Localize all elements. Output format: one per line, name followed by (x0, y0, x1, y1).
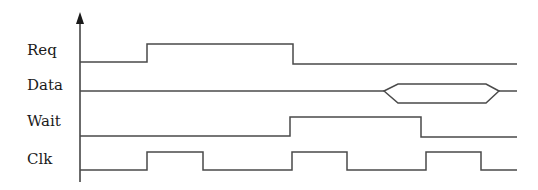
signal-label-wait: Wait (27, 112, 61, 130)
waveform-clk (80, 152, 517, 170)
signal-req: Req (27, 41, 517, 64)
timing-diagram: Req Data Wait Clk (0, 0, 538, 190)
time-axis (76, 12, 84, 182)
waveform-wait (80, 117, 517, 137)
signal-clk: Clk (27, 150, 517, 170)
signal-label-clk: Clk (27, 150, 53, 168)
signal-wait: Wait (27, 112, 517, 137)
waveform-req (80, 44, 517, 64)
arrow-up-icon (76, 12, 84, 24)
waveform-data-bus-valid (384, 84, 499, 103)
signal-data: Data (27, 76, 517, 103)
signal-label-req: Req (27, 41, 57, 59)
signal-label-data: Data (27, 76, 63, 94)
